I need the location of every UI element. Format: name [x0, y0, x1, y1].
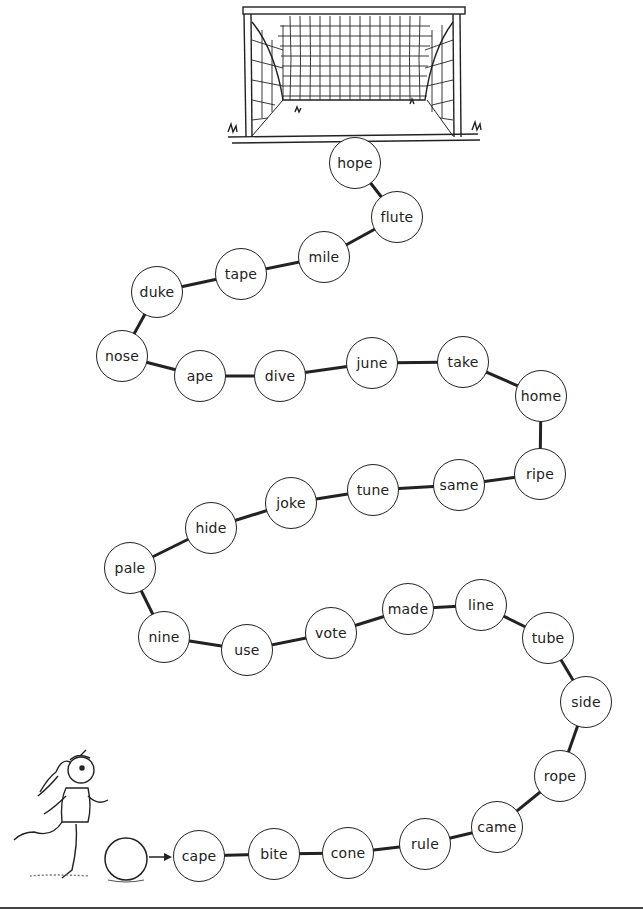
- word-circle-duke: duke: [131, 266, 183, 318]
- word-circle-joke: joke: [265, 477, 317, 529]
- word-circle-nine: nine: [138, 611, 190, 663]
- word-circle-cone: cone: [322, 827, 374, 879]
- word-circle-side: side: [560, 676, 612, 728]
- word-circle-take: take: [437, 336, 489, 388]
- word-circle-tape: tape: [215, 248, 267, 300]
- word-circle-june: june: [346, 337, 398, 389]
- word-circle-ape: ape: [174, 350, 226, 402]
- word-circle-mile: mile: [298, 231, 350, 283]
- word-circle-flute: flute: [371, 191, 423, 243]
- word-circle-tune: tune: [347, 464, 399, 516]
- word-circle-line: line: [455, 579, 507, 631]
- word-circle-dive: dive: [254, 350, 306, 402]
- word-circle-pale: pale: [104, 542, 156, 594]
- word-circle-bite: bite: [248, 828, 300, 880]
- word-circle-same: same: [433, 459, 485, 511]
- worksheet: capebiteconerulecameropesidetubelinemade…: [0, 0, 643, 914]
- soccer-goal-illustration: [228, 7, 481, 143]
- footer-divider: [0, 907, 643, 909]
- word-circle-home: home: [515, 370, 567, 422]
- word-circle-ripe: ripe: [514, 448, 566, 500]
- girl-running-illustration: [14, 750, 108, 878]
- start-arrow-icon: [149, 853, 172, 861]
- word-circle-cape: cape: [173, 830, 225, 882]
- word-circle-nose: nose: [96, 330, 148, 382]
- word-circle-use: use: [221, 624, 273, 676]
- word-circle-vote: vote: [305, 607, 357, 659]
- word-circle-came: came: [471, 801, 523, 853]
- word-circle-rule: rule: [399, 818, 451, 870]
- word-circle-tube: tube: [522, 612, 574, 664]
- soccer-ball-illustration: [105, 838, 147, 882]
- word-circle-hope: hope: [329, 137, 381, 189]
- word-circle-rope: rope: [534, 750, 586, 802]
- word-circle-made: made: [382, 583, 434, 635]
- word-circle-hide: hide: [185, 502, 237, 554]
